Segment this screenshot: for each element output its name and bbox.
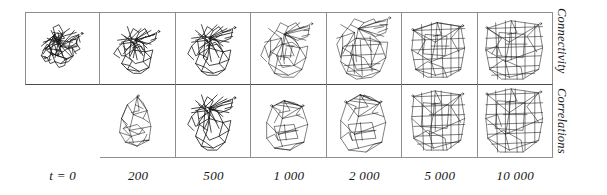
network-mesh-icon	[327, 85, 401, 157]
panel-correlations-2000[interactable]	[327, 85, 402, 158]
panel-correlations-200[interactable]	[100, 85, 175, 158]
row-correlations	[25, 85, 553, 158]
time-label-1000: 1 000	[251, 163, 326, 189]
time-label-10000: 10 000	[478, 163, 553, 189]
panel-correlations-5000[interactable]	[402, 85, 477, 158]
network-mesh-icon	[251, 85, 325, 157]
time-label-5000: 5 000	[402, 163, 477, 189]
panel-correlations-10000[interactable]	[478, 85, 553, 158]
row-connectivity	[25, 12, 553, 85]
time-label-2000: 2 000	[327, 163, 402, 189]
time-label-t0: t = 0	[25, 163, 100, 189]
row-label-connectivity: Connectivity	[554, 8, 569, 30]
panel-connectivity-2000[interactable]	[327, 12, 402, 85]
network-mesh-icon	[176, 13, 250, 84]
row-label-correlations-text: Correlations	[554, 88, 569, 154]
network-mesh-icon	[402, 13, 476, 84]
panel-connectivity-200[interactable]	[100, 12, 175, 85]
network-mesh-icon	[100, 85, 174, 157]
network-mesh-icon	[478, 85, 552, 157]
panel-correlations-1000[interactable]	[251, 85, 326, 158]
panel-connectivity-1000[interactable]	[251, 12, 326, 85]
row-label-correlations: Correlations	[554, 88, 569, 110]
panel-connectivity-5000[interactable]	[402, 12, 477, 85]
network-mesh-icon	[251, 13, 325, 84]
network-mesh-icon	[478, 13, 552, 84]
row-label-column: Connectivity Correlations	[556, 6, 590, 166]
figure-root: t = 0 200 500 1 000 2 000 5 000 10 000 C…	[0, 0, 607, 195]
panel-connectivity-500[interactable]	[176, 12, 251, 85]
network-mesh-icon	[327, 13, 401, 84]
panel-correlations-500[interactable]	[176, 85, 251, 158]
panel-correlations-t0-empty	[25, 85, 100, 158]
time-label-200: 200	[100, 163, 175, 189]
panel-connectivity-t0[interactable]	[25, 12, 100, 85]
panel-connectivity-10000[interactable]	[478, 12, 553, 85]
panel-grid	[25, 12, 553, 158]
network-mesh-icon	[402, 85, 476, 157]
time-axis: t = 0 200 500 1 000 2 000 5 000 10 000	[25, 163, 553, 189]
network-mesh-icon	[100, 13, 174, 84]
row-label-connectivity-text: Connectivity	[554, 8, 569, 74]
network-mesh-icon	[176, 85, 250, 157]
network-mesh-icon	[26, 13, 99, 84]
time-label-500: 500	[176, 163, 251, 189]
